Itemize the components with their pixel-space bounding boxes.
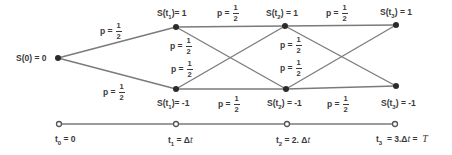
label-s2-down: S(t2) = -1 xyxy=(267,99,302,110)
label-s2-up: S(t2) = 1 xyxy=(266,9,298,20)
prob-s0-down: p =12 xyxy=(103,83,125,101)
node-s1-up xyxy=(173,24,179,30)
prob-s2down-up: p =12 xyxy=(280,59,302,77)
label-s0: S(0) = 0 xyxy=(16,54,46,63)
edge-s2up-s3up xyxy=(285,25,396,26)
prob-s0-up: p =12 xyxy=(100,22,122,40)
label-s1-down: S(t1)= -1 xyxy=(157,99,189,110)
tick-t1 xyxy=(174,122,179,127)
tree-diagram xyxy=(0,0,452,155)
label-s3-up: S(t3) = 1 xyxy=(380,8,412,19)
node-s1-down xyxy=(173,86,179,92)
time-label-t2: t2 = 2. Δt xyxy=(276,134,310,147)
prob-s1up-down: p =12 xyxy=(170,37,192,55)
node-s2-down xyxy=(283,86,289,92)
edge-s2down-s3down xyxy=(286,86,396,89)
time-label-t1: t1 = Δt xyxy=(168,134,193,147)
prob-s1up-s2up: p =12 xyxy=(217,4,239,22)
prob-s1down-up: p =12 xyxy=(171,60,193,78)
tick-t2 xyxy=(285,122,290,127)
label-s1-up: S(t1)= 1 xyxy=(157,9,187,20)
prob-s2up-down: p =12 xyxy=(280,36,302,54)
label-s3-down: S(t3) = -1 xyxy=(381,99,416,110)
time-label-t3: t3 = 3.Δt = T xyxy=(376,133,428,146)
node-s0 xyxy=(55,55,61,61)
prob-s1down-s2down: p =12 xyxy=(218,95,240,113)
prob-s2up-s3up: p =12 xyxy=(326,4,348,22)
edge-s1up-s2up xyxy=(176,26,285,27)
tick-t0 xyxy=(57,122,62,127)
prob-s2down-s3down: p =12 xyxy=(327,95,349,113)
node-s3-up xyxy=(393,22,399,28)
node-s3-down xyxy=(393,83,399,89)
node-s2-up xyxy=(282,23,288,29)
time-label-t0: t0 = 0 xyxy=(55,134,76,146)
edge-s2down-s3up xyxy=(286,25,396,89)
tick-t3 xyxy=(393,122,398,127)
